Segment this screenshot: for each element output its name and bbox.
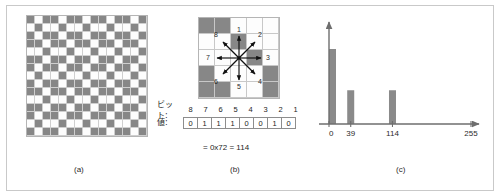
panel-a-cell xyxy=(35,48,43,56)
panel-a-cell xyxy=(99,112,107,120)
panel-a-cell xyxy=(67,96,75,104)
panel-a-cell xyxy=(59,16,67,24)
panel-a-cell xyxy=(27,88,35,96)
panel-a-cell xyxy=(27,112,35,120)
panel-a-cell xyxy=(51,32,59,40)
panel-a-cell xyxy=(59,112,67,120)
panel-a-cell xyxy=(35,32,43,40)
panel-a-cell xyxy=(83,64,91,72)
panel-a-cell xyxy=(99,104,107,112)
panel-a-cell xyxy=(131,32,139,40)
bit-value-cell: 0 xyxy=(254,117,268,129)
panel-a-cell xyxy=(107,96,115,104)
panel-a-cell xyxy=(123,24,131,32)
panel-a-cell xyxy=(67,120,75,128)
panel-b-cell xyxy=(263,18,279,34)
panel-a-cell xyxy=(27,48,35,56)
panel-a-cell xyxy=(59,48,67,56)
panel-a-cell xyxy=(59,120,67,128)
panel-a-cell xyxy=(67,40,75,48)
panel-a-cell xyxy=(115,64,123,72)
panel-a-cell xyxy=(43,88,51,96)
panel-a-cell xyxy=(83,24,91,32)
panel-a-cell xyxy=(123,56,131,64)
panel-a-cell xyxy=(123,80,131,88)
panel-a-cell xyxy=(75,48,83,56)
bit-index-cell: 5 xyxy=(228,104,243,115)
panel-a-cell xyxy=(115,48,123,56)
panel-a-cell xyxy=(75,112,83,120)
panel-a-cell xyxy=(123,112,131,120)
panel-a-cell xyxy=(67,80,75,88)
panel-b-neighborhood: 1 2 3 4 5 6 7 8 xyxy=(198,17,278,97)
panel-a-cell xyxy=(123,104,131,112)
panel-a-cell xyxy=(115,88,123,96)
panel-a-cell xyxy=(139,16,147,24)
panel-a-cell xyxy=(107,88,115,96)
panel-a-cell xyxy=(67,16,75,24)
panel-a-cell xyxy=(139,32,147,40)
panel-a-cell xyxy=(67,128,75,136)
panel-a-cell xyxy=(35,56,43,64)
panel-a-cell xyxy=(27,32,35,40)
panel-a-cell xyxy=(107,24,115,32)
panel-a-cell xyxy=(107,56,115,64)
panel-c-histogram: 039114255 xyxy=(311,12,486,137)
panel-a-cell xyxy=(99,72,107,80)
panel-b-cell xyxy=(231,34,247,50)
bit-value-cell: 1 xyxy=(212,117,226,129)
panel-a-cell xyxy=(123,128,131,136)
panel-a-cell xyxy=(123,64,131,72)
panel-a-cell xyxy=(51,96,59,104)
panel-a-cell xyxy=(139,104,147,112)
panel-a-cell xyxy=(99,88,107,96)
panel-a-cell xyxy=(139,112,147,120)
panel-b-cell xyxy=(263,34,279,50)
panel-a-cell xyxy=(91,24,99,32)
panel-a-cell xyxy=(75,88,83,96)
panel-a-cell xyxy=(91,104,99,112)
panel-a-cell xyxy=(51,64,59,72)
panel-a-cell xyxy=(83,80,91,88)
panel-a-cell xyxy=(35,88,43,96)
panel-a-cell xyxy=(115,24,123,32)
panel-a-cell xyxy=(115,104,123,112)
panel-a-cell xyxy=(59,40,67,48)
caption-c: (c) xyxy=(396,165,405,174)
panel-a-cell xyxy=(139,64,147,72)
panel-a-cell xyxy=(51,72,59,80)
panel-a-cell xyxy=(59,72,67,80)
panel-a-cell xyxy=(51,56,59,64)
panel-a-cell xyxy=(91,64,99,72)
panel-a-cell xyxy=(35,80,43,88)
panel-a-cell xyxy=(99,96,107,104)
panel-a-cell xyxy=(75,128,83,136)
caption-b: (b) xyxy=(230,165,240,174)
panel-a-cell xyxy=(99,64,107,72)
panel-a-cell xyxy=(131,80,139,88)
panel-a-cell xyxy=(91,80,99,88)
panel-a-cell xyxy=(115,96,123,104)
panel-a-cell xyxy=(115,40,123,48)
panel-a-cell xyxy=(67,56,75,64)
panel-a-cell xyxy=(91,48,99,56)
panel-a-cell xyxy=(91,72,99,80)
panel-a-cell xyxy=(35,96,43,104)
panel-a-cell xyxy=(43,32,51,40)
panel-a-cell xyxy=(67,104,75,112)
panel-a-cell xyxy=(35,16,43,24)
panel-a-cell xyxy=(59,88,67,96)
panel-a-cell xyxy=(27,64,35,72)
bit-header-cells: 87654321 xyxy=(183,104,303,115)
panel-a-cell xyxy=(67,24,75,32)
panel-a-cell xyxy=(91,96,99,104)
bit-value-cell: 0 xyxy=(184,117,198,129)
panel-a-cell xyxy=(115,112,123,120)
panel-a-cell xyxy=(43,104,51,112)
panel-a-cell xyxy=(99,40,107,48)
value-row-label: 値: xyxy=(157,117,183,128)
panel-a-cell xyxy=(75,104,83,112)
panel-a-cell xyxy=(99,128,107,136)
panel-a-cell xyxy=(139,128,147,136)
panel-a-cell xyxy=(83,112,91,120)
